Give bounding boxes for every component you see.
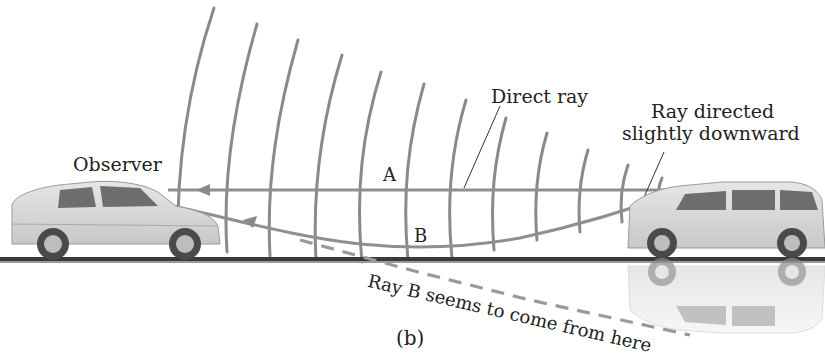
panel-label: (b): [396, 328, 424, 348]
observer-label: Observer: [73, 155, 162, 174]
mirage-reflection: [628, 258, 825, 333]
ray-directed-label-line2: slightly downward: [622, 124, 800, 143]
direct-ray-label: Direct ray: [491, 87, 588, 106]
wavefront-8: [493, 118, 507, 250]
wavefront-4: [315, 55, 342, 260]
point-a-label: A: [383, 166, 396, 184]
road: [0, 257, 825, 263]
direct-ray-a: [168, 184, 684, 196]
wavefront-11: [621, 165, 628, 222]
source-car: [628, 182, 825, 258]
point-b-label: B: [414, 227, 427, 245]
diagram-canvas: [0, 0, 825, 358]
observer-car: [12, 181, 220, 260]
wavefront-5: [359, 72, 381, 262]
wavefront-9: [536, 133, 547, 240]
ray-directed-label-line1: Ray directed: [651, 102, 774, 121]
arrow-left-icon: [196, 184, 210, 196]
wavefront-7: [450, 100, 466, 258]
mirage-diagram: Observer Direct ray Ray directed slightl…: [0, 0, 825, 358]
wavefront-3: [269, 40, 298, 256]
